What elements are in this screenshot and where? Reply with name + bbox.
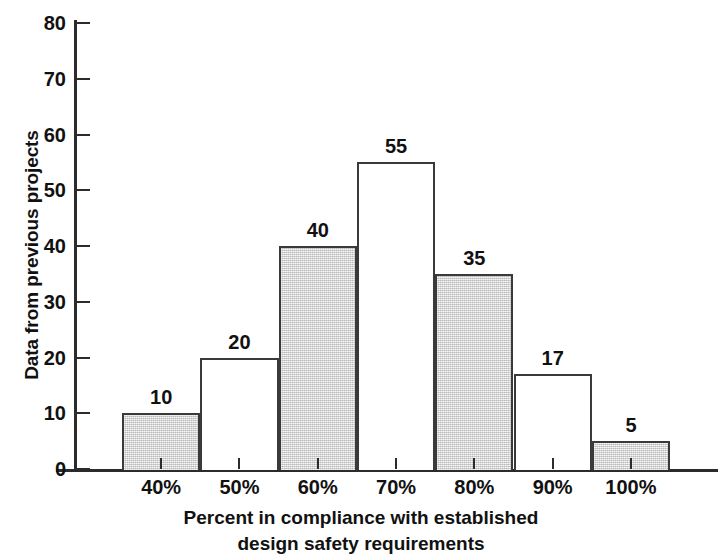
bar-value-label: 10 <box>116 387 206 407</box>
y-tick-mark <box>77 189 90 191</box>
bar <box>200 358 278 471</box>
y-tick-mark <box>77 468 90 470</box>
y-tick-label: 0 <box>26 459 66 479</box>
x-axis-title: Percent in compliance with established d… <box>0 505 722 556</box>
x-axis-title-line-1: Percent in compliance with established <box>184 507 539 528</box>
bar <box>357 162 435 470</box>
bar-value-label: 5 <box>586 415 676 435</box>
y-tick-label-wrap: 30 <box>26 292 66 312</box>
x-tick-label: 80% <box>429 476 519 498</box>
y-tick-label: 40 <box>26 236 66 256</box>
y-tick-label-wrap: 70 <box>26 69 66 89</box>
bar-value-label: 40 <box>273 220 363 240</box>
bar <box>279 246 357 470</box>
x-axis-title-line-2: design safety requirements <box>0 531 722 557</box>
y-tick-label-wrap: 80 <box>26 13 66 33</box>
x-tick-label: 70% <box>351 476 441 498</box>
y-tick-label: 80 <box>26 13 66 33</box>
x-tick-mark <box>395 458 397 469</box>
y-tick-mark <box>77 22 90 24</box>
x-tick-label: 60% <box>273 476 363 498</box>
y-tick-mark <box>77 134 90 136</box>
y-tick-mark <box>77 245 90 247</box>
x-tick-label: 40% <box>116 476 206 498</box>
y-tick-label-wrap: 40 <box>26 236 66 256</box>
x-tick-mark <box>552 458 554 469</box>
bar-value-label: 35 <box>429 248 519 268</box>
y-tick-mark <box>77 78 90 80</box>
bar-value-label: 20 <box>194 332 284 352</box>
bar <box>514 374 592 470</box>
x-tick-label: 50% <box>194 476 284 498</box>
x-tick-mark <box>317 458 319 469</box>
x-tick-mark <box>473 458 475 469</box>
bar-value-label: 17 <box>508 348 598 368</box>
histogram-chart: Data from previous projects 010203040506… <box>0 0 722 560</box>
y-tick-mark <box>77 357 90 359</box>
x-tick-label: 90% <box>508 476 598 498</box>
y-tick-label-wrap: 60 <box>26 125 66 145</box>
y-tick-label: 30 <box>26 292 66 312</box>
y-tick-label: 20 <box>26 348 66 368</box>
y-tick-label: 60 <box>26 125 66 145</box>
x-tick-mark <box>238 458 240 469</box>
y-tick-mark <box>77 301 90 303</box>
y-tick-label-wrap: 20 <box>26 348 66 368</box>
y-tick-label: 50 <box>26 180 66 200</box>
y-tick-label-wrap: 10 <box>26 403 66 423</box>
y-tick-label: 70 <box>26 69 66 89</box>
y-tick-mark <box>77 412 90 414</box>
x-tick-label: 100% <box>586 476 676 498</box>
x-tick-mark <box>160 458 162 469</box>
x-tick-mark <box>630 458 632 469</box>
bar-value-label: 55 <box>351 136 441 156</box>
y-tick-label: 10 <box>26 403 66 423</box>
y-tick-label-wrap: 50 <box>26 180 66 200</box>
y-tick-label-wrap: 0 <box>26 459 66 479</box>
bar <box>435 274 513 470</box>
